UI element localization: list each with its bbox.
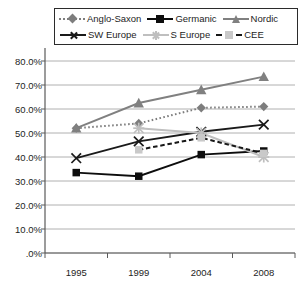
plot-area: .0%10.0%20.0%30.0%40.0%50.0%60.0%70.0%80… <box>0 48 303 292</box>
series-markers-nordic <box>71 71 269 132</box>
data-point-marker <box>198 134 206 142</box>
data-point-marker <box>135 146 143 154</box>
legend-item-nordic[interactable]: Nordic <box>223 11 278 27</box>
legend-item-sw-europe[interactable]: SW Europe <box>60 27 137 43</box>
series-line-germanic <box>76 151 264 176</box>
data-point-marker <box>135 172 143 180</box>
line-chart: Anglo-Saxon Germanic Nordic <box>0 0 303 292</box>
legend-label-anglo-saxon: Anglo-Saxon <box>87 13 141 25</box>
legend-key-anglo-saxon <box>59 13 85 25</box>
data-point-marker <box>259 71 269 81</box>
legend-key-sw-europe <box>60 29 86 41</box>
legend-row: Anglo-Saxon Germanic Nordic <box>59 11 294 27</box>
plot-canvas <box>0 48 303 292</box>
data-point-marker <box>73 169 81 177</box>
data-point-marker <box>197 103 206 112</box>
axes <box>41 48 295 258</box>
legend-key-s-europe <box>143 29 169 41</box>
legend-label-germanic: Germanic <box>175 13 216 25</box>
legend-item-s-europe[interactable]: S Europe <box>143 27 211 43</box>
data-point-marker <box>259 102 268 111</box>
chart-legend: Anglo-Saxon Germanic Nordic <box>54 8 298 45</box>
legend-label-s-europe: S Europe <box>171 29 211 41</box>
legend-item-germanic[interactable]: Germanic <box>147 11 216 27</box>
legend-row: SW Europe S Europe CEE <box>59 27 294 43</box>
legend-label-sw-europe: SW Europe <box>88 29 137 41</box>
legend-item-anglo-saxon[interactable]: Anglo-Saxon <box>59 11 141 27</box>
series-lines <box>76 77 264 177</box>
legend-key-germanic <box>147 13 173 25</box>
data-point-marker <box>260 150 268 158</box>
legend-label-cee: CEE <box>244 29 264 41</box>
legend-label-nordic: Nordic <box>251 13 278 25</box>
data-point-marker <box>133 123 144 134</box>
legend-key-cee <box>216 29 242 41</box>
legend-key-nordic <box>223 13 249 25</box>
legend-item-cee[interactable]: CEE <box>216 27 264 43</box>
series-line-nordic <box>76 77 264 129</box>
data-point-marker <box>198 151 206 159</box>
